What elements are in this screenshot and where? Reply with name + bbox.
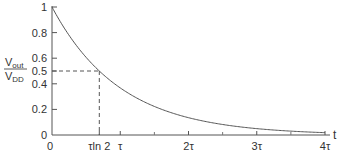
- svg-text:Vout: Vout: [5, 56, 24, 70]
- y-tick-label: 0.6: [32, 52, 47, 64]
- decay-curve: [52, 7, 325, 133]
- ylabel-den-sub: DD: [12, 75, 24, 84]
- half-value-guides: [52, 71, 99, 135]
- x-ticks: 0τln 2τ2τ3τ4τ: [47, 131, 331, 152]
- x-tick-label: 4τ: [320, 140, 331, 152]
- x-tick-label: τ: [118, 140, 123, 152]
- y-tick-label: 1: [41, 1, 47, 13]
- svg-text:VDD: VDD: [5, 70, 24, 84]
- x-tick-label: 0: [47, 140, 53, 152]
- x-axis-label: t: [333, 128, 337, 142]
- axes: [52, 6, 330, 135]
- x-tick-label: 3τ: [252, 140, 263, 152]
- x-tick-label: 2τ: [183, 140, 194, 152]
- decay-chart: 00.20.40.50.60.81 0τln 2τ2τ3τ4τ t Vout V…: [0, 0, 337, 156]
- y-tick-label: 0.5: [32, 65, 47, 77]
- y-tick-label: 0.2: [32, 103, 47, 115]
- y-tick-label: 0.8: [32, 27, 47, 39]
- y-tick-label: 0.4: [32, 78, 47, 90]
- x-tick-label: τln 2: [88, 140, 110, 152]
- y-axis-label: Vout VDD: [4, 56, 27, 84]
